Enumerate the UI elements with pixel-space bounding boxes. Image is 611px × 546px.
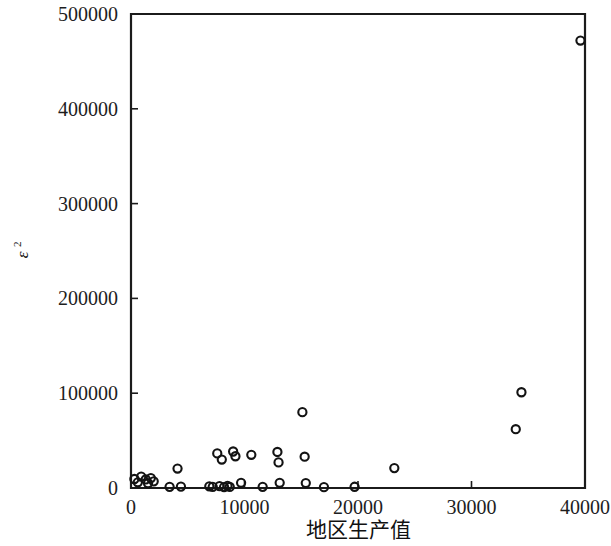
x-tick-label: 40000 [560, 496, 610, 518]
y-tick-label: 300000 [58, 193, 118, 215]
y-tick-label: 0 [108, 477, 118, 499]
y-tick-label: 500000 [58, 3, 118, 25]
y-tick-label: 400000 [58, 98, 118, 120]
x-tick-label: 30000 [447, 496, 497, 518]
x-tick-label: 0 [126, 496, 136, 518]
figure-background [0, 0, 611, 546]
y-tick-label: 100000 [58, 382, 118, 404]
x-tick-label: 10000 [220, 496, 270, 518]
plot-svg: 0100000200000300000400000500000 01000020… [0, 0, 611, 546]
y-axis-title-epsilon: ε [13, 251, 32, 258]
y-tick-label: 200000 [58, 287, 118, 309]
x-axis-title: 地区生产值 [306, 518, 411, 542]
scatter-chart-figure: 0100000200000300000400000500000 01000020… [0, 0, 611, 546]
x-tick-label: 20000 [333, 496, 383, 518]
y-axis-title-superscript: 2 [11, 242, 23, 248]
